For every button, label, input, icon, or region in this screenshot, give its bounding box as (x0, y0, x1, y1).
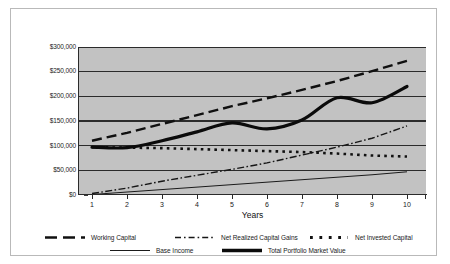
x-tick-mark (407, 195, 408, 199)
dashed-line-swatch (43, 231, 87, 244)
y-axis: $300,000 $250,000 $200,000 $150,000 $100… (21, 39, 76, 203)
x-tick-label-3: 3 (150, 200, 174, 210)
legend-row-1: Working Capital Net Realized Capital Gai… (25, 231, 444, 244)
series-line-base-income (92, 172, 407, 195)
x-tick-label-8: 8 (325, 200, 349, 210)
x-tick-label-1: 1 (80, 200, 104, 210)
legend-label-total-portfolio-market-value: Total Portfolio Market Value (268, 244, 346, 257)
chart-legend: Working Capital Net Realized Capital Gai… (25, 231, 444, 259)
thin-solid-line-swatch (108, 244, 152, 257)
y-axis-line (78, 47, 79, 195)
x-tick-mark (302, 195, 303, 199)
y-tick-label-250000: $250,000 (21, 67, 76, 75)
x-tick-label-9: 9 (360, 200, 384, 210)
x-tick-mark (197, 195, 198, 199)
y-tick-label-300000: $300,000 (21, 43, 76, 51)
legend-row-2: Base Income Total Portfolio Market Value (25, 244, 444, 257)
x-tick-label-6: 6 (255, 200, 279, 210)
x-tick-mark (162, 195, 163, 199)
x-tick-mark (337, 195, 338, 199)
x-tick-label-4: 4 (185, 200, 209, 210)
gridlines (78, 48, 426, 171)
y-tick-label-50000: $50,000 (21, 166, 76, 174)
y-tick-label-200000: $200,000 (21, 92, 76, 100)
y-tick-label-150000: $150,000 (21, 117, 76, 125)
series-line-net-invested-capital (92, 147, 407, 156)
x-tick-label-2: 2 (115, 200, 139, 210)
x-tick-label-5: 5 (220, 200, 244, 210)
chart-frame: $300,000 $250,000 $200,000 $150,000 $100… (10, 8, 437, 256)
x-tick-mark (232, 195, 233, 199)
x-tick-label-7: 7 (290, 200, 314, 210)
x-tick-mark (267, 195, 268, 199)
series-line-total-portfolio-market-value (92, 86, 407, 148)
x-axis-title: Years (78, 210, 427, 221)
x-tick-mark (425, 195, 426, 199)
x-tick-mark (372, 195, 373, 199)
legend-label-net-realized-capital-gains: Net Realized Capital Gains (221, 231, 298, 244)
legend-label-net-invested-capital: Net Invested Capital (355, 231, 413, 244)
y-tick-label-0: $0 (21, 191, 76, 199)
dotted-line-swatch (307, 231, 351, 244)
chart-figure: $300,000 $250,000 $200,000 $150,000 $100… (0, 0, 450, 264)
y-tick-label-100000: $100,000 (21, 142, 76, 150)
x-tick-mark (127, 195, 128, 199)
dash-dot-line-swatch (173, 231, 217, 244)
legend-label-base-income: Base Income (156, 244, 193, 257)
thick-solid-line-swatch (220, 244, 264, 257)
x-tick-mark (92, 195, 93, 199)
legend-label-working-capital: Working Capital (91, 231, 136, 244)
x-tick-label-10: 10 (395, 200, 419, 210)
chart-plot-svg (78, 47, 426, 195)
plot-area (78, 47, 426, 195)
